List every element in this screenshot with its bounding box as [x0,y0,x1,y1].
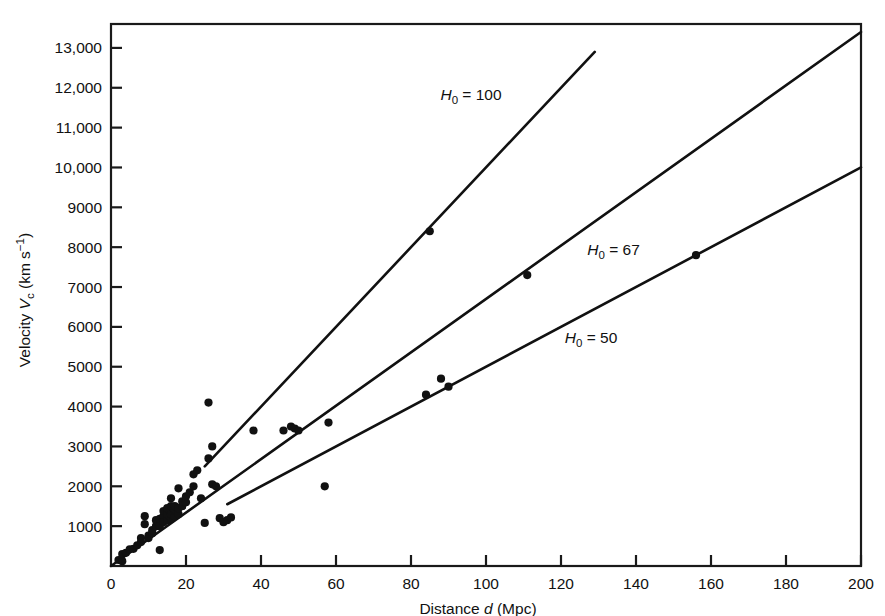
annotation-h0-50: H0 = 50 [565,329,618,349]
data-point [692,251,700,259]
y-tick-label: 10,000 [55,159,103,176]
x-tick-label: 200 [848,575,874,592]
x-axis-tick-labels: 020406080100120140160180200 [107,575,875,592]
data-point [201,519,209,527]
x-tick-label: 60 [327,575,345,592]
y-tick-label: 7000 [68,279,103,296]
data-point [212,482,220,490]
data-point [294,426,302,434]
data-point [197,494,205,502]
x-tick-label: 40 [252,575,270,592]
y-tick-label: 1000 [68,518,103,535]
x-tick-label: 80 [402,575,420,592]
x-tick-label: 0 [107,575,116,592]
data-point [204,454,212,462]
x-axis-title: Distance d (Mpc) [419,600,536,616]
fit-lines [111,32,861,566]
data-point [321,482,329,490]
data-point [141,512,149,520]
fit-line-50 [227,167,861,504]
x-axis-ticks [186,555,861,566]
data-point [156,546,164,554]
y-axis-ticks [111,48,122,526]
y-tick-label: 12,000 [55,79,103,96]
data-point [141,520,149,528]
annotation-h0-67: H0 = 67 [587,241,640,261]
x-tick-label: 20 [177,575,195,592]
data-point [444,383,452,391]
data-point [208,442,216,450]
chart-canvas: 020406080100120140160180200 100020003000… [0,0,885,616]
data-point [227,513,235,521]
y-tick-label: 2000 [68,478,103,495]
data-point [426,227,434,235]
data-point [193,466,201,474]
data-point [137,534,145,542]
data-point [324,418,332,426]
x-tick-label: 100 [473,575,499,592]
y-tick-label: 3000 [68,438,103,455]
data-point [249,426,257,434]
y-tick-label: 13,000 [55,39,103,56]
x-tick-label: 160 [698,575,724,592]
annotation-h0-100: H0 = 100 [440,86,502,106]
x-tick-label: 140 [623,575,649,592]
y-tick-label: 4000 [68,398,103,415]
fit-line-67 [111,32,861,566]
y-tick-label: 8000 [68,239,103,256]
data-point [422,391,430,399]
y-tick-label: 9000 [68,199,103,216]
y-axis-title: Velocity Vc (km s−1) [14,233,36,367]
data-point [174,484,182,492]
data-points [114,227,700,565]
data-point [167,494,175,502]
fit-line-100 [205,52,595,466]
data-point [279,426,287,434]
x-tick-label: 180 [773,575,799,592]
data-point [118,557,126,565]
data-point [523,271,531,279]
y-tick-label: 6000 [68,318,103,335]
data-point [437,375,445,383]
data-point [204,399,212,407]
y-axis-tick-labels: 10002000300040005000600070008000900010,0… [55,39,103,534]
y-tick-label: 5000 [68,358,103,375]
data-point [189,482,197,490]
hubble-diagram-figure: 020406080100120140160180200 100020003000… [0,0,885,616]
y-tick-label: 11,000 [56,119,103,136]
x-tick-label: 120 [548,575,574,592]
